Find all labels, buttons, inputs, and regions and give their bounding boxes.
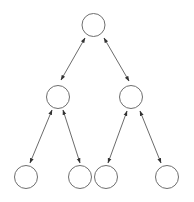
bidirectional-arrow-root-to-right [104,38,129,81]
nodes-layer [15,14,179,189]
bidirectional-arrow-left-to-left-left [30,110,52,163]
tree-node-left-left [15,166,38,189]
tree-node-right-left [95,166,118,189]
bidirectional-arrow-left-to-left-right [63,110,80,163]
tree-node-left-right [69,166,92,189]
tree-node-right-right [156,166,179,189]
bidirectional-arrow-right-to-right-right [140,111,161,163]
tree-diagram-svg [0,0,194,202]
bidirectional-arrow-right-to-right-left [108,111,127,163]
tree-node-left [47,86,70,109]
bidirectional-arrow-root-to-left [61,38,85,80]
tree-node-right [120,86,143,109]
tree-node-root [82,14,105,37]
tree-diagram [0,0,194,202]
